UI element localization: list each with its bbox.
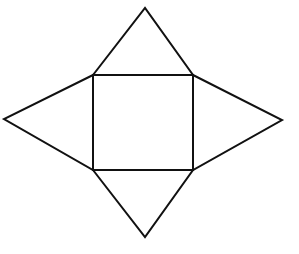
triangle-face-left: [4, 75, 93, 170]
square-base: [93, 75, 193, 170]
square-pyramid-net-diagram: [0, 0, 299, 254]
triangle-face-right: [193, 75, 282, 170]
triangle-face-top: [93, 8, 193, 75]
triangle-face-bottom: [93, 170, 193, 237]
